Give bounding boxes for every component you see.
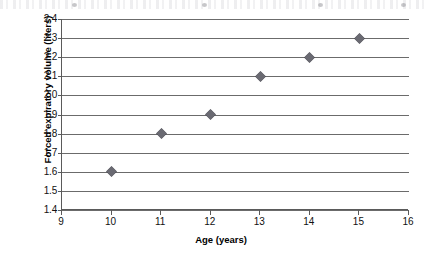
x-axis-tick — [259, 210, 260, 215]
y-axis-tick — [58, 76, 62, 77]
y-axis-tick — [58, 191, 62, 192]
y-axis-tick-label: 2.4 — [33, 14, 57, 24]
x-axis-tick-label: 12 — [197, 216, 223, 228]
y-axis-tick-label: 2.3 — [33, 33, 57, 43]
data-point-marker — [156, 129, 166, 139]
y-axis-tick — [58, 172, 62, 173]
x-axis-tick — [408, 210, 409, 215]
y-axis-tick-label: 1.5 — [33, 186, 57, 196]
y-axis-tick-label: 2.1 — [33, 71, 57, 81]
gridline — [62, 19, 409, 20]
y-axis-title-container: Forced expiratory volume (liters) — [14, 19, 28, 210]
y-axis-tick — [58, 153, 62, 154]
gridline — [62, 134, 409, 135]
x-axis-tick — [210, 210, 211, 215]
gridline — [62, 76, 409, 77]
x-axis-tick-label: 16 — [395, 216, 421, 228]
x-axis-tick — [61, 210, 62, 215]
y-axis-tick — [58, 95, 62, 96]
y-axis-tick — [58, 57, 62, 58]
y-axis-tick-labels: 1.41.51.61.71.81.92.02.12.22.32.4 — [31, 19, 57, 210]
chart-figure: Forced expiratory volume (liters) 1.41.5… — [0, 0, 427, 258]
x-axis-tick-label: 11 — [147, 216, 173, 228]
y-axis-tick — [58, 19, 62, 20]
scanned-text-artifact — [0, 0, 427, 9]
x-axis-tick — [160, 210, 161, 215]
gridline — [62, 95, 409, 96]
y-axis-tick-label: 1.9 — [33, 110, 57, 120]
x-axis-tick-label: 10 — [98, 216, 124, 228]
y-axis-tick-label: 2.0 — [33, 90, 57, 100]
data-point-marker — [107, 167, 117, 177]
x-axis-tick — [358, 210, 359, 215]
x-axis-tick-label: 15 — [345, 216, 371, 228]
y-axis-tick-label: 1.8 — [33, 129, 57, 139]
gridline — [62, 57, 409, 58]
y-axis-tick — [58, 134, 62, 135]
y-axis-tick — [58, 115, 62, 116]
gridline — [62, 191, 409, 192]
data-point-marker — [354, 33, 364, 43]
data-point-marker — [305, 52, 315, 62]
gridline — [62, 153, 409, 154]
x-axis-tick-label: 9 — [48, 216, 74, 228]
x-axis-title: Age (years) — [61, 234, 381, 246]
plot-area — [61, 19, 408, 210]
y-axis-tick-label: 2.2 — [33, 52, 57, 62]
gridline — [62, 115, 409, 116]
data-point-marker — [206, 110, 216, 120]
x-axis-tick-label: 13 — [246, 216, 272, 228]
y-axis-tick — [58, 38, 62, 39]
x-axis-tick-labels: 910111213141516 — [61, 216, 409, 230]
y-axis-tick-label: 1.4 — [33, 205, 57, 215]
x-axis-tick-label: 14 — [296, 216, 322, 228]
y-axis-tick-label: 1.7 — [33, 148, 57, 158]
y-axis-tick-label: 1.6 — [33, 167, 57, 177]
x-axis-tick — [309, 210, 310, 215]
data-point-marker — [255, 71, 265, 81]
x-axis-tick — [111, 210, 112, 215]
